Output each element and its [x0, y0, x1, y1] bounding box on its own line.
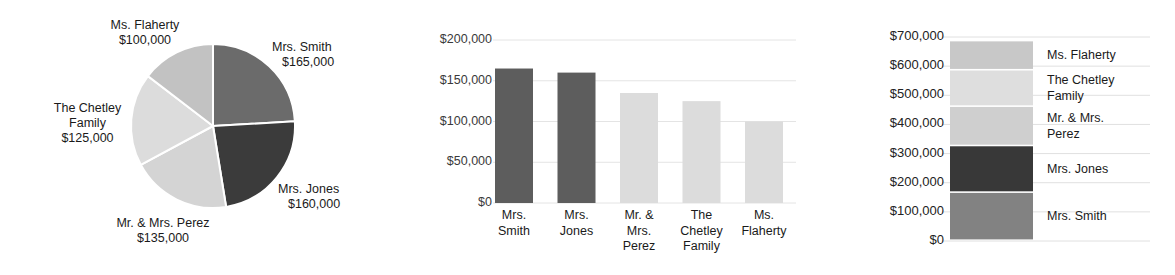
bar-x-label-line: Perez: [604, 239, 674, 255]
stacked-y-tick-label: $500,000: [824, 86, 944, 101]
bar-chart-panel: $200,000$150,000$100,000$50,000$0 Mrs.Sm…: [400, 0, 820, 275]
pie-label-mrs-jones-name: Mrs. Jones: [278, 182, 339, 196]
stacked-y-tick-label: $200,000: [824, 174, 944, 189]
stacked-y-tick-label: $0: [824, 232, 944, 247]
stacked-legend-item-line: Mr. & Mrs.: [1047, 111, 1172, 127]
bar-x-label-line: The: [667, 208, 737, 224]
stacked-y-tick-label: $300,000: [824, 145, 944, 160]
stacked-segment-mrs-smith: [950, 193, 1033, 239]
stacked-y-tick-label: $400,000: [824, 115, 944, 130]
stacked-bar-chart-panel: $700,000$600,000$500,000$400,000$300,000…: [820, 0, 1175, 275]
stacked-legend-item: The ChetleyFamily: [1047, 73, 1172, 104]
stacked-legend-item-line: The Chetley: [1047, 73, 1172, 89]
pie-label-mr-mrs-perez-name: Mr. & Mrs. Perez: [116, 216, 209, 230]
stacked-segment-the-chetley-family: [950, 71, 1033, 106]
bar-x-label: Ms.Flaherty: [729, 208, 799, 239]
stacked-legend-item-line: Mrs. Smith: [1047, 209, 1172, 225]
stacked-bar-y-axis-ticks: $700,000$600,000$500,000$400,000$300,000…: [820, 0, 944, 275]
bar-y-tick-label: $200,000: [402, 32, 492, 46]
stacked-legend-item-line: Mrs. Jones: [1047, 162, 1172, 178]
pie-label-mr-mrs-perez: Mr. & Mrs. Perez $135,000: [83, 216, 243, 246]
stacked-legend-item-line: Ms. Flaherty: [1047, 48, 1172, 64]
bar-x-label-line: Mrs.: [604, 224, 674, 240]
pie-chart-panel: Ms. Flaherty $100,000 Mrs. Smith $165,00…: [0, 0, 400, 275]
bar-x-label-line: Family: [667, 239, 737, 255]
bar-x-label: TheChetleyFamily: [667, 208, 737, 255]
bar-x-label: Mr. &Mrs.Perez: [604, 208, 674, 255]
stacked-y-tick-label: $700,000: [824, 28, 944, 43]
stacked-legend-item-line: Family: [1047, 89, 1172, 105]
bar-x-label-line: Mrs.: [542, 208, 612, 224]
pie-label-ms-flaherty: Ms. Flaherty $100,000: [65, 18, 225, 48]
bar-x-label: Mrs.Smith: [479, 208, 549, 239]
stacked-legend-item: Mrs. Jones: [1047, 162, 1172, 178]
bar-the-chetley-family: [683, 101, 721, 203]
pie-label-ms-flaherty-name: Ms. Flaherty: [111, 18, 180, 32]
pie-label-chetley-family-amount: $125,000: [30, 131, 145, 146]
bar-x-label-line: Mrs.: [479, 208, 549, 224]
bar-y-tick-label: $50,000: [402, 154, 492, 168]
bar-mrs-jones: [558, 73, 596, 203]
bar-mr-mrs-perez: [620, 93, 658, 203]
stacked-legend-item: Mr. & Mrs.Perez: [1047, 111, 1172, 142]
bar-x-label: Mrs.Jones: [542, 208, 612, 239]
bar-y-tick-label: $100,000: [402, 114, 492, 128]
pie-label-mr-mrs-perez-amount: $135,000: [83, 231, 243, 246]
stacked-segment-mrs-jones: [950, 146, 1033, 191]
stacked-legend-item-line: Perez: [1047, 127, 1172, 143]
stacked-bar-segments: [950, 41, 1033, 239]
stacked-y-tick-label: $100,000: [824, 203, 944, 218]
bar-mrs-smith: [495, 69, 533, 203]
stacked-segment-mr-mrs-perez: [950, 107, 1033, 145]
stacked-segment-ms-flaherty: [950, 41, 1033, 69]
pie-label-ms-flaherty-amount: $100,000: [65, 33, 225, 48]
bar-series: [495, 69, 783, 203]
pie-label-mrs-smith-amount: $165,000: [282, 55, 382, 70]
pie-label-chetley-family-name: The Chetley: [54, 101, 121, 115]
stacked-legend-item: Ms. Flaherty: [1047, 48, 1172, 64]
pie-label-mrs-jones-amount: $160,000: [288, 197, 388, 212]
stacked-y-tick-label: $600,000: [824, 57, 944, 72]
bar-x-label-line: Jones: [542, 224, 612, 240]
bar-y-tick-label: $150,000: [402, 73, 492, 87]
pie-label-chetley-family: The Chetley Family $125,000: [30, 101, 145, 146]
bar-x-label-line: Smith: [479, 224, 549, 240]
pie-label-mrs-smith-name: Mrs. Smith: [272, 40, 332, 54]
bar-x-label-line: Flaherty: [729, 224, 799, 240]
bar-x-label-line: Ms.: [729, 208, 799, 224]
bar-x-label-line: Chetley: [667, 224, 737, 240]
pie-label-mrs-smith: Mrs. Smith $165,000: [272, 40, 382, 70]
stacked-legend-item: Mrs. Smith: [1047, 209, 1172, 225]
pie-slices: [131, 44, 295, 208]
bar-x-label-line: Mr. &: [604, 208, 674, 224]
pie-label-mrs-jones: Mrs. Jones $160,000: [278, 182, 388, 212]
bar-ms-flaherty: [745, 122, 783, 204]
bar-y-tick-label: $0: [402, 195, 492, 209]
pie-label-chetley-family-name2: Family: [30, 116, 145, 131]
